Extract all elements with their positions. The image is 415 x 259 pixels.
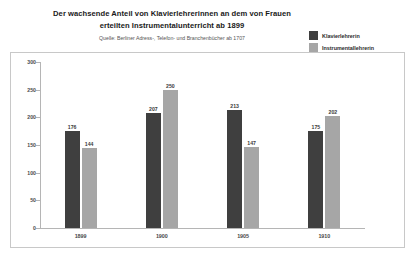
x-axis-category-label: 1900 [132,233,192,239]
x-axis-category-label: 1910 [294,233,354,239]
bar [227,110,242,228]
title-block: Der wachsende Anteil von Klavierlehrerin… [34,8,310,42]
chart-title-line-1: Der wachsende Anteil von Klavierlehrerin… [34,8,310,20]
legend-swatch-icon [309,31,318,40]
x-axis-category-label: 1905 [213,233,273,239]
y-axis-tick-label: 100 [16,170,36,176]
bar-value-label: 213 [220,103,250,109]
legend-label: Klavierlehrerin [322,33,360,39]
y-axis-tick-label: 0 [16,225,36,231]
bar-group: 176144 [65,62,97,228]
legend-swatch-icon [309,43,318,52]
bar [146,113,161,228]
y-axis-tick-label: 200 [16,114,36,120]
bar-value-label: 202 [318,109,348,115]
bar-group: 207250 [146,62,178,228]
bar [163,90,178,228]
chart-subtitle: Quelle: Berliner Adress-, Telefon- und B… [34,34,310,42]
legend-item-klavierlehrerin: Klavierlehrerin [309,30,411,41]
y-axis-tick-label: 50 [16,197,36,203]
chart-title-line-2: erteilten Instrumentalunterricht ab 1899 [34,20,310,32]
bar-value-label: 147 [237,140,267,146]
y-axis-tick [36,228,41,229]
bar-group: 175202 [308,62,340,228]
y-axis-tick-label: 300 [16,59,36,65]
bar-value-label: 176 [57,124,87,130]
bar-group: 213147 [227,62,259,228]
plot-area: 176144207250213147175202 [40,62,365,228]
x-axis-line [40,228,365,229]
bar [325,116,340,228]
bar [82,148,97,228]
bar-chart: Der wachsende Anteil von Klavierlehrerin… [0,0,415,259]
bar [308,131,323,228]
legend-label: Instrumentallehrerin [322,45,374,51]
y-axis-tick-label: 150 [16,142,36,148]
bar-value-label: 144 [74,141,104,147]
chart-legend: Klavierlehrerin Instrumentallehrerin [309,30,411,54]
bar [244,147,259,228]
chart-title: Der wachsende Anteil von Klavierlehrerin… [34,8,310,31]
y-axis-tick-label: 250 [16,87,36,93]
bar-value-label: 250 [155,83,185,89]
x-axis-category-label: 1899 [51,233,111,239]
